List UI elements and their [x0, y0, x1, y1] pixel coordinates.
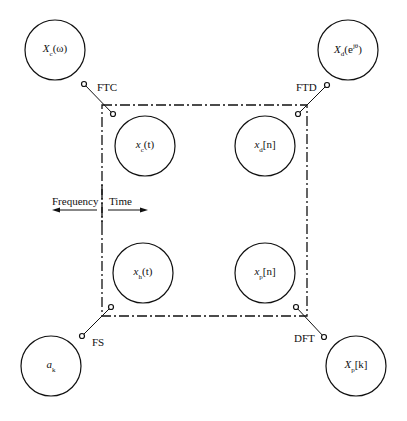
node-label-Xp: Xp[k] [344, 358, 367, 373]
transform-label-FTC: FTC [97, 81, 117, 93]
endpoint-icon [296, 112, 301, 117]
endpoint-icon [109, 305, 114, 310]
endpoint-icon [294, 305, 299, 310]
endpoint-icon [322, 335, 327, 340]
link-FS [82, 307, 111, 336]
arrow-right-icon [140, 208, 148, 213]
node-label-xp: xp[n] [254, 265, 275, 280]
endpoint-icon [80, 334, 85, 339]
endpoint-icon [325, 83, 330, 88]
endpoint-icon [82, 82, 87, 87]
node-label-xc: xc(t) [136, 138, 154, 153]
transform-label-DFT: DFT [294, 332, 315, 344]
node-label-ak: ak [47, 358, 56, 373]
arrow-left-icon [52, 208, 60, 213]
node-label-Xd: Xd(ejθ) [334, 42, 362, 58]
transform-label-FS: FS [92, 336, 104, 348]
endpoint-icon [111, 112, 116, 117]
node-label-xh: xh(t) [134, 265, 153, 280]
frequency-label: Frequency [52, 195, 98, 207]
time-label: Time [109, 195, 132, 207]
node-label-xd: xd[n] [254, 138, 275, 153]
transform-label-FTD: FTD [296, 81, 317, 93]
node-label-Xc: Xc(ω) [43, 42, 67, 57]
